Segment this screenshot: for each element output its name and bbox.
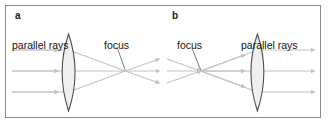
panel-a-parallel-rays-label: parallel rays bbox=[12, 39, 69, 51]
panel-b-diverging-rays bbox=[201, 50, 258, 92]
panel-a-converging-rays bbox=[69, 50, 126, 92]
panel-b-incoming-rays bbox=[167, 59, 201, 83]
panel-b-focus-label: focus bbox=[177, 39, 202, 51]
figure-frame: a bbox=[5, 5, 321, 118]
panel-a-focus-label: focus bbox=[104, 39, 129, 51]
panel-b: b bbox=[163, 6, 320, 117]
panel-a: a bbox=[6, 6, 163, 117]
panel-b-ray-diagram bbox=[163, 6, 320, 117]
panel-b-outgoing-rays bbox=[257, 50, 314, 92]
panel-a-incoming-rays bbox=[12, 50, 69, 92]
panel-a-diverging-rays bbox=[125, 59, 159, 83]
panel-a-focus-leader bbox=[117, 48, 125, 70]
figure-root: a bbox=[0, 0, 328, 127]
panel-b-parallel-rays-label: parallel rays bbox=[241, 39, 298, 51]
panel-b-focus-leader bbox=[192, 48, 201, 70]
panel-a-ray-diagram bbox=[6, 6, 163, 117]
